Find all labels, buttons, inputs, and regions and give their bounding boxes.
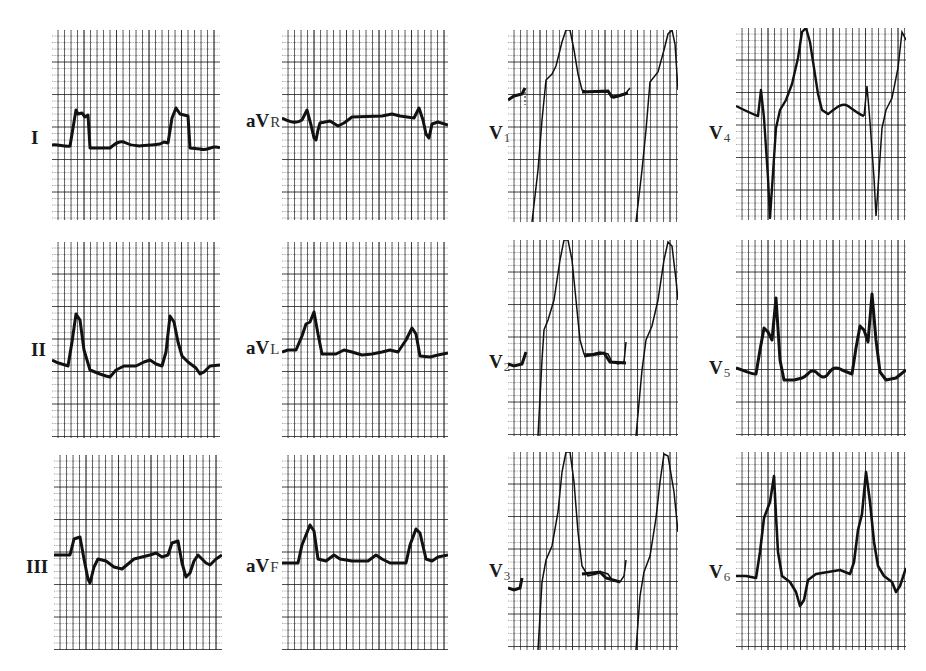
lead-label-II: II xyxy=(31,340,46,359)
lead-label-sub: F xyxy=(270,559,278,575)
lead-label-main: V xyxy=(489,122,503,143)
ecg-panel-V4 xyxy=(736,28,906,220)
lead-label-sub: L xyxy=(270,341,279,357)
ecg-panel-aVR xyxy=(282,30,448,220)
lead-label-III: III xyxy=(26,557,48,576)
lead-label-I: I xyxy=(31,128,38,147)
lead-label-main: V xyxy=(709,122,723,143)
ecg-panel-aVF xyxy=(282,455,448,650)
ecg-trace-aVR xyxy=(282,30,448,220)
ecg-trace-V1 xyxy=(508,30,678,222)
ecg-panel-aVL xyxy=(282,242,448,438)
ecg-trace-V2 xyxy=(508,240,678,436)
lead-label-main: aV xyxy=(246,555,269,576)
ecg-panel-V5 xyxy=(736,240,906,436)
lead-label-main: V xyxy=(709,561,723,582)
ecg-trace-V3 xyxy=(508,452,678,650)
ecg-panel-III xyxy=(54,455,222,650)
lead-label-main: V xyxy=(709,357,723,378)
lead-label-main: V xyxy=(489,351,503,372)
lead-label-main: II xyxy=(31,339,46,360)
lead-label-sub: 6 xyxy=(724,569,731,584)
ecg-trace-aVL xyxy=(282,242,448,438)
lead-label-V4: V4 xyxy=(709,123,730,142)
lead-label-aVF: aVF xyxy=(246,556,279,575)
ecg-panel-V2 xyxy=(508,240,678,436)
lead-label-aVL: aVL xyxy=(246,338,279,357)
lead-label-main: III xyxy=(26,556,48,577)
ecg-trace-V4 xyxy=(736,28,906,220)
lead-label-V6: V6 xyxy=(709,562,730,581)
lead-label-main: I xyxy=(31,127,38,148)
ecg-panel-I xyxy=(52,30,220,220)
ecg-trace-I xyxy=(52,30,220,220)
lead-label-main: aV xyxy=(246,110,269,131)
lead-label-aVR: aVR xyxy=(246,111,280,130)
ecg-trace-III xyxy=(54,455,222,650)
lead-label-sub: R xyxy=(270,114,280,130)
ecg-panel-V1 xyxy=(508,30,678,222)
ecg-trace-V6 xyxy=(736,452,906,650)
ecg-panel-V6 xyxy=(736,452,906,650)
lead-label-V5: V5 xyxy=(709,358,730,377)
ecg-panel-V3 xyxy=(508,452,678,650)
lead-label-sub: 5 xyxy=(724,365,731,380)
ecg-trace-V5 xyxy=(736,240,906,436)
ecg-panel-II xyxy=(52,242,220,438)
ecg-trace-aVF xyxy=(282,455,448,650)
lead-label-main: aV xyxy=(246,337,269,358)
lead-label-main: V xyxy=(489,560,503,581)
ecg-trace-II xyxy=(52,242,220,438)
lead-label-sub: 4 xyxy=(724,130,731,145)
